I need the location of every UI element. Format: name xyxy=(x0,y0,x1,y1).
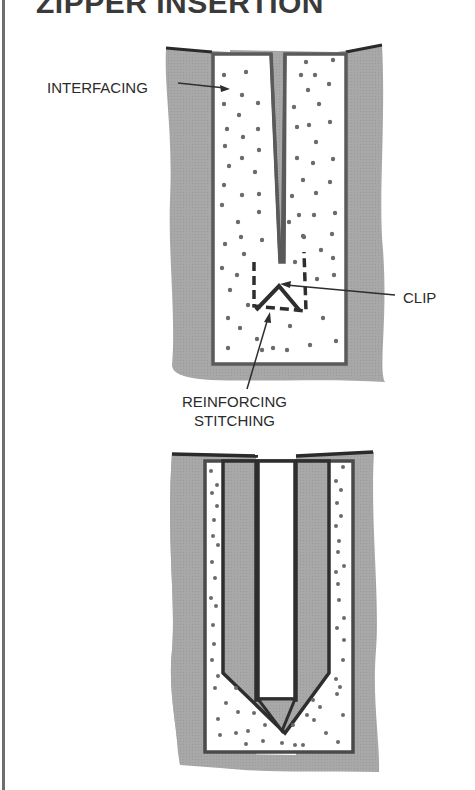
reinforcing-stitching-label: REINFORCING STITCHING xyxy=(182,392,287,430)
zipper-opening xyxy=(258,461,295,699)
top-figure xyxy=(166,45,395,389)
interfacing-label: INTERFACING xyxy=(47,78,148,97)
reinforcing-label-line1: REINFORCING xyxy=(182,392,287,411)
reinforcing-label-line2: STITCHING xyxy=(182,411,287,430)
bottom-figure xyxy=(170,452,379,772)
clip-label: CLIP xyxy=(403,288,436,307)
